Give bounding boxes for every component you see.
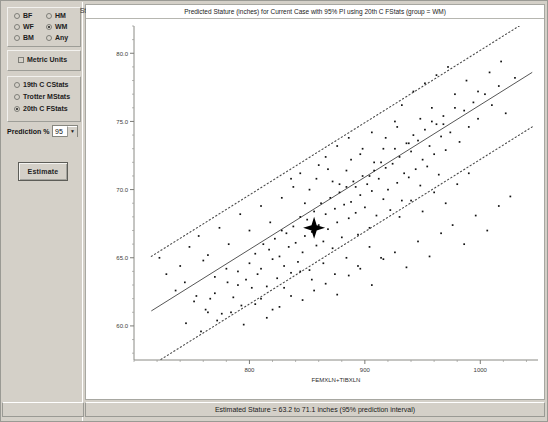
stats-group-groupbox: 19th C CStats Trotter MStats 20th C FSta…: [7, 76, 81, 122]
radio-wm[interactable]: WM: [46, 23, 67, 30]
svg-text:1000: 1000: [474, 367, 488, 373]
svg-text:900: 900: [360, 367, 371, 373]
radio-any[interactable]: Any: [46, 34, 68, 41]
svg-text:75.0: 75.0: [116, 119, 128, 125]
radio-indicator-trotter-mstats: [14, 94, 20, 100]
checkbox-indicator-metric-units: [18, 57, 24, 63]
estimate-button[interactable]: Estimate: [18, 162, 68, 181]
chevron-down-icon[interactable]: ▼: [67, 126, 77, 137]
radio-hm[interactable]: HM: [46, 12, 66, 19]
radio-indicator-20th-c-fstats: [14, 106, 20, 112]
radio-label-19th-c-cstats: 19th C CStats: [23, 81, 69, 88]
radio-20th-c-fstats[interactable]: 20th C FStats: [14, 105, 68, 112]
radio-label-20th-c-fstats: 20th C FStats: [23, 105, 68, 112]
radio-19th-c-cstats[interactable]: 19th C CStats: [14, 81, 69, 88]
radio-label-any: Any: [55, 34, 68, 41]
radio-indicator-wm: [46, 24, 52, 30]
radio-indicator-19th-c-cstats: [14, 82, 20, 88]
statusbar-left-filler: [2, 402, 84, 417]
chart-panel: Stature Predicted Stature (inches) for C…: [85, 4, 545, 400]
radio-label-wf: WF: [23, 23, 34, 30]
prediction-percent-value: 95: [53, 128, 67, 135]
radio-label-trotter-mstats: Trotter MStats: [23, 93, 70, 100]
chart-title: Predicted Stature (inches) for Current C…: [86, 5, 544, 19]
radio-indicator-any: [46, 35, 52, 41]
scatter-plot: 60.065.070.075.080.08009001000FEMXLN+TIB…: [104, 20, 542, 386]
radio-indicator-hm: [46, 13, 52, 19]
plot-svg: 60.065.070.075.080.08009001000FEMXLN+TIB…: [104, 20, 542, 386]
radio-label-wm: WM: [55, 23, 67, 30]
radio-indicator-wf: [14, 24, 20, 30]
control-panel: BF HM WF WM BM Any: [2, 2, 83, 421]
radio-trotter-mstats[interactable]: Trotter MStats: [14, 93, 70, 100]
sex-group-groupbox: BF HM WF WM BM Any: [7, 7, 81, 47]
application-window: BF HM WF WM BM Any: [0, 0, 548, 422]
svg-text:80.0: 80.0: [116, 51, 128, 57]
status-bar: Estimated Stature = 63.2 to 71.1 inches …: [85, 402, 545, 417]
prediction-percent-label: Prediction %: [7, 128, 49, 135]
radio-bm[interactable]: BM: [14, 34, 34, 41]
radio-bf[interactable]: BF: [14, 12, 32, 19]
svg-text:65.0: 65.0: [116, 255, 128, 261]
svg-text:FEMXLN+TIBXLN: FEMXLN+TIBXLN: [312, 377, 361, 383]
prediction-percent-select[interactable]: 95 ▼: [52, 125, 78, 137]
radio-label-bm: BM: [23, 34, 34, 41]
radio-indicator-bf: [14, 13, 20, 19]
radio-wf[interactable]: WF: [14, 23, 34, 30]
svg-text:70.0: 70.0: [116, 187, 128, 193]
svg-text:60.0: 60.0: [116, 323, 128, 329]
metric-units-groupbox: Metric Units: [7, 50, 81, 71]
checkbox-label-metric-units: Metric Units: [27, 56, 67, 63]
status-bar-text: Estimated Stature = 63.2 to 71.1 inches …: [215, 406, 415, 413]
radio-label-hm: HM: [55, 12, 66, 19]
checkbox-metric-units[interactable]: Metric Units: [18, 56, 67, 63]
svg-text:800: 800: [244, 367, 255, 373]
radio-indicator-bm: [14, 35, 20, 41]
radio-label-bf: BF: [23, 12, 32, 19]
